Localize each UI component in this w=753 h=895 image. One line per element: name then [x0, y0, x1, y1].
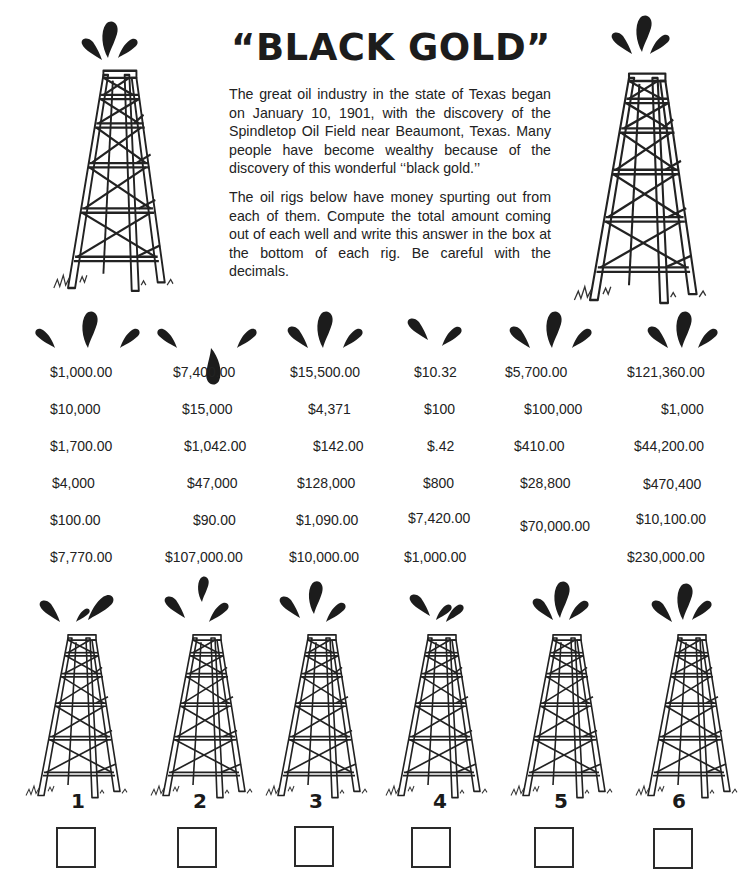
amount: $470,400	[643, 476, 701, 492]
answer-box-5[interactable]	[534, 827, 574, 868]
answer-box-1[interactable]	[56, 827, 96, 868]
amount: $10,000.00	[289, 549, 359, 565]
amount: $10,000	[50, 401, 101, 417]
amount: $47,000	[187, 475, 238, 491]
answer-box-4[interactable]	[411, 827, 451, 868]
amount: $44,200.00	[634, 438, 704, 454]
amount: $15,000	[182, 401, 233, 417]
amount: $1,042.00	[184, 438, 246, 454]
amount: $4,000	[52, 475, 95, 491]
oil-splash-icon	[640, 290, 750, 354]
answer-box-2[interactable]	[177, 827, 217, 868]
amount: $800	[423, 475, 454, 491]
oil-rig-3	[260, 572, 370, 816]
amount: $10,100.00	[636, 511, 706, 527]
amount: $7,420.00	[408, 510, 470, 526]
intro-paragraph-history: The great oil industry in the state of T…	[229, 85, 551, 178]
amount: $230,000.00	[627, 549, 705, 565]
amount: $1,700.00	[50, 438, 112, 454]
amount: $70,000.00	[520, 518, 590, 534]
amount: $90.00	[193, 512, 236, 528]
amount: $.42	[427, 438, 454, 454]
amount: $10.32	[414, 364, 457, 380]
amount: $1,000.00	[404, 549, 466, 565]
rig-number: 6	[672, 789, 686, 813]
amount: $4,371	[308, 401, 351, 417]
page-title: “BLACK GOLD”	[226, 26, 556, 69]
amount: $142.00	[313, 438, 364, 454]
amount: $5,700.00	[505, 364, 567, 380]
answer-box-6[interactable]	[653, 828, 693, 869]
amount: $7,770.00	[50, 549, 112, 565]
amount: $121,360.00	[627, 364, 705, 380]
amount: $1,000.00	[50, 364, 112, 380]
oil-splash-icon	[155, 290, 265, 354]
rig-number: 5	[554, 789, 568, 813]
amount: $107,000.00	[165, 549, 243, 565]
oil-splash-icon	[283, 290, 393, 354]
oil-rig-2	[145, 572, 255, 816]
amount: $1,090.00	[296, 512, 358, 528]
oil-rig-1	[20, 572, 130, 816]
oil-rig-icon	[50, 20, 180, 304]
amount: $100.00	[50, 512, 101, 528]
amount: $1,000	[661, 401, 704, 417]
amount: $410.00	[514, 438, 565, 454]
oil-splash-icon	[400, 290, 510, 354]
rig-number: 2	[193, 789, 207, 813]
oil-splash-icon	[30, 290, 140, 354]
amount: $7,400.00	[173, 364, 235, 380]
rig-number: 1	[71, 789, 85, 813]
answer-box-3[interactable]	[294, 826, 334, 867]
rig-number: 3	[309, 789, 323, 813]
oil-rig-6	[630, 572, 740, 816]
intro-paragraph-instructions: The oil rigs below have money spurting o…	[229, 188, 551, 281]
amount: $128,000	[297, 475, 355, 491]
amount: $100,000	[524, 401, 582, 417]
amount: $15,500.00	[290, 364, 360, 380]
oil-rig-icon	[580, 20, 720, 309]
amount: $28,800	[520, 475, 571, 491]
rig-number: 4	[433, 789, 447, 813]
amount: $100	[424, 401, 455, 417]
oil-splash-icon	[510, 290, 620, 354]
oil-rig-4	[380, 572, 490, 816]
oil-rig-5	[505, 572, 615, 816]
